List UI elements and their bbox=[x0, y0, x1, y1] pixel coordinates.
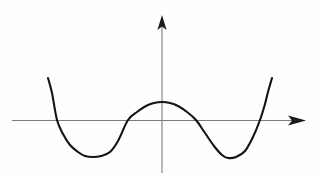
graph-figure bbox=[0, 0, 320, 177]
plot-canvas bbox=[0, 0, 320, 177]
